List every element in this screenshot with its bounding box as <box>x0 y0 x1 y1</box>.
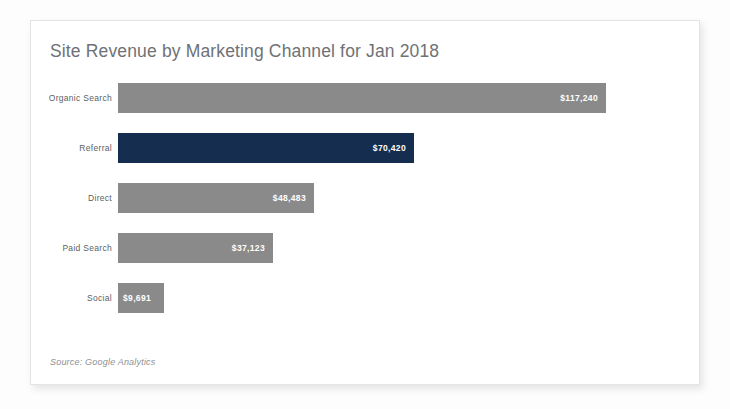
bar-paid-search[interactable]: $37,123 <box>118 233 273 263</box>
bar-referral[interactable]: $70,420 <box>118 133 414 163</box>
bar-value-label: $37,123 <box>232 233 265 263</box>
chart-source-note: Source: Google Analytics <box>50 357 156 367</box>
bar-value-label: $70,420 <box>373 133 406 163</box>
bar-direct[interactable]: $48,483 <box>118 183 314 213</box>
bar-category-label: Paid Search <box>31 233 112 263</box>
bar-row: Organic Search$117,240 <box>31 83 701 113</box>
bar-social[interactable]: $9,691 <box>118 283 164 313</box>
bar-chart-plot-area: Organic Search$117,240Referral$70,420Dir… <box>31 83 701 338</box>
bar-row: Referral$70,420 <box>31 133 701 163</box>
bar-category-label: Social <box>31 283 112 313</box>
bar-row: Social$9,691 <box>31 283 701 313</box>
bar-category-label: Organic Search <box>31 83 112 113</box>
bar-category-label: Referral <box>31 133 112 163</box>
bar-category-label: Direct <box>31 183 112 213</box>
bar-row: Direct$48,483 <box>31 183 701 213</box>
chart-card: Site Revenue by Marketing Channel for Ja… <box>30 20 700 385</box>
bar-value-label: $48,483 <box>273 183 306 213</box>
chart-title: Site Revenue by Marketing Channel for Ja… <box>50 41 439 62</box>
bar-row: Paid Search$37,123 <box>31 233 701 263</box>
bar-value-label: $9,691 <box>123 283 151 313</box>
bar-organic-search[interactable]: $117,240 <box>118 83 606 113</box>
bar-value-label: $117,240 <box>560 83 598 113</box>
